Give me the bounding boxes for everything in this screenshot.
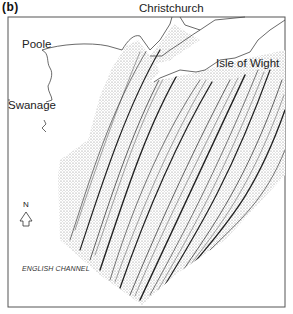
label-poole: Poole	[22, 38, 51, 50]
label-christchurch: Christchurch	[139, 2, 204, 14]
north-label: N	[23, 200, 29, 209]
north-arrow-icon	[20, 212, 32, 226]
label-swanage: Swanage	[8, 99, 56, 111]
label-english-channel: ENGLISH CHANNEL	[22, 265, 90, 272]
label-isle-of-wight: Isle of Wight	[216, 57, 279, 69]
